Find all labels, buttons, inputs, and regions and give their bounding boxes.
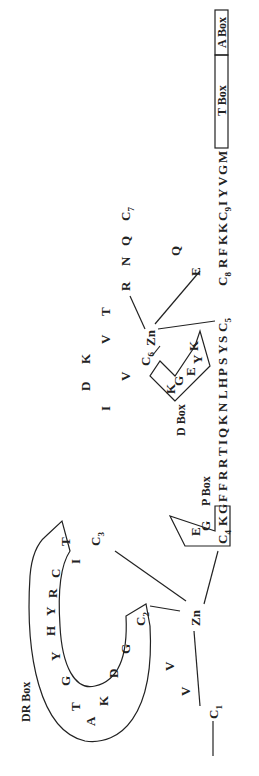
tail-sequence: R F K K [215,222,230,268]
residue-v: V [178,686,193,696]
d-box-residue: E [183,367,198,376]
svg-text:L: L [215,390,230,399]
c5-residue: C5 [215,318,233,332]
bond-c5-zn [158,321,215,329]
svg-text:F: F [215,494,230,502]
loop-residue: D [106,669,121,678]
svg-text:K: K [215,414,230,425]
svg-text:F: F [215,483,230,491]
c7-residue: C7 [118,207,136,221]
loop-residue: R [45,588,60,598]
bond-c1-zn [194,631,200,706]
loop-residue: V [98,334,113,344]
bond-c4-zn [204,551,218,604]
c3-residue: C3 [88,532,106,546]
bond-c7-zn [130,296,145,329]
svg-text:I: I [215,440,230,445]
svg-text:S: S [215,358,230,365]
loop-residue: K [96,695,111,706]
svg-text:R: R [215,258,230,268]
bond-c8-zn [155,271,200,324]
svg-text:F: F [215,248,230,256]
loop-residue: V [118,371,133,381]
post-c7-residue: E [188,267,203,276]
svg-text:K: K [215,222,230,233]
loop-residue: T [98,307,113,316]
loop-residue: A [83,716,98,726]
svg-text:K: K [215,234,230,245]
svg-text:R: R [215,458,230,468]
loop-residue: I [68,559,83,564]
loop-residue: C [48,569,63,578]
svg-text:M: M [215,151,230,163]
svg-text:I: I [215,201,230,206]
post-c7-residue: Q [168,246,183,256]
svg-text:N: N [215,402,230,412]
loop-residue: G [58,676,73,686]
c9-residue: C9 [215,207,233,221]
svg-text:P: P [215,368,230,376]
bond-c3-zn [115,551,186,601]
p-box-residue: G [215,504,230,514]
loop-residue: N [118,256,133,266]
loop-residue: Y [43,606,58,616]
d-box-label: D Box [174,404,188,436]
loop-residue: D [78,382,93,391]
svg-text:Y: Y [215,188,230,198]
bond-c2-zn [150,606,180,611]
loop-residue: Q [118,236,133,246]
d-box-residue: K [186,340,201,351]
bond-c6-zn [152,346,160,356]
zinc-ion-2: Zn [143,329,158,346]
loop-residue: T [68,702,83,711]
svg-text:V: V [215,176,230,186]
svg-text:Q: Q [215,428,230,438]
diagram-canvas: C1 V V DR Box C2 G D K A T G Y H Y R C I… [0,0,259,776]
zinc-ion-1: Zn [188,609,203,626]
c8-residue: C8 [215,272,233,286]
loop-residue: G [118,644,133,654]
p-box-label: P Box [199,476,213,506]
p-box-residue: K [215,515,230,526]
dr-box-label: DR Box [19,682,33,722]
c1-residue: C1 [206,705,224,719]
d-box-residue: Y [190,354,205,364]
t-box-label: T Box [215,85,229,116]
p-box-residue: G [198,521,213,531]
svg-text:G: G [215,165,230,175]
svg-text:H: H [215,378,230,388]
loop-residue: K [78,353,93,364]
a-box-label: A Box [215,17,229,48]
svg-text:S: S [215,336,230,343]
loop-residue: R [118,281,133,291]
d-box-residue: G [171,376,186,386]
d-box-outline [150,331,210,401]
loop-residue: I [98,406,113,411]
loop-residue: H [43,626,58,636]
tail-sequence-2: I Y V G M [215,151,230,206]
residue-v: V [162,661,177,671]
svg-text:R: R [215,470,230,480]
linker-sequence: F F R R T I Q K N L H P S Y S [215,336,230,502]
loop-residue: Y [48,651,63,661]
loop-residue: T [58,537,73,546]
svg-text:Y: Y [215,344,230,354]
svg-text:T: T [215,447,230,456]
